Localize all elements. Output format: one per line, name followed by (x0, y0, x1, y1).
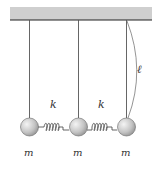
coupled-pendulum-diagram: k k ℓ m m m (0, 0, 160, 174)
spring-left-label: k (50, 98, 57, 111)
spring-left (38, 123, 69, 131)
ceiling (10, 7, 152, 20)
length-label: ℓ (137, 63, 142, 76)
spring-right-label: k (98, 98, 105, 111)
mass-right (118, 118, 136, 136)
mass-middle-label: m (73, 147, 82, 158)
spring-right (87, 123, 117, 131)
mass-left-label: m (24, 147, 33, 158)
length-arc (127, 21, 137, 118)
mass-left (21, 118, 39, 136)
mass-right-label: m (121, 147, 130, 158)
mass-middle (70, 118, 88, 136)
